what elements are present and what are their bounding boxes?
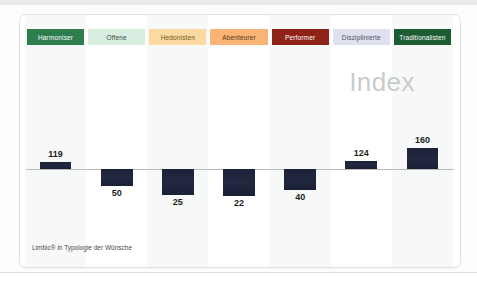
bar-hedonisten[interactable] [162,169,194,195]
plot-area: 11950252240124160 [20,15,460,267]
index-watermark: Index [322,67,442,98]
bar-performer[interactable] [284,169,316,190]
bar-value-label-offene: 50 [86,188,147,198]
bar-value-label-traditionalisten: 160 [392,135,453,145]
bar-abenteurer[interactable] [223,169,255,196]
bar-harmoniser[interactable] [40,162,72,169]
bar-value-label-performer: 40 [270,192,331,202]
slide-top-edge [0,0,477,5]
chart-footnote: Limbic® in Typologie der Wünsche [32,244,132,251]
bar-value-label-harmoniser: 119 [25,149,86,159]
bar-value-label-abenteurer: 22 [208,198,269,208]
slide-bottom-rule [0,272,477,273]
bar-disziplinierte[interactable] [345,161,377,169]
bar-value-label-hedonisten: 25 [147,197,208,207]
slide-canvas: HarmoniserOffeneHedonistenAbenteurerPerf… [0,0,477,294]
slide-bottom-edge [0,274,477,294]
chart-panel: HarmoniserOffeneHedonistenAbenteurerPerf… [19,14,461,268]
bar-value-label-disziplinierte: 124 [331,148,392,158]
bar-traditionalisten[interactable] [407,148,439,169]
bar-offene[interactable] [101,169,133,186]
